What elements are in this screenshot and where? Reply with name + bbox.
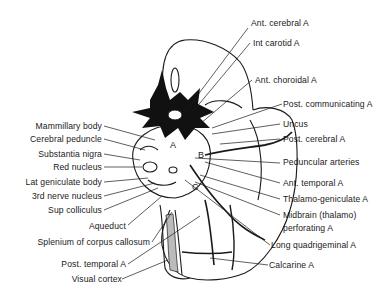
circle-of-willis [132,70,214,140]
label-ant-temporal-a: Ant. temporal A [283,178,343,188]
label-mammillary-body: Mammillary body [36,121,102,131]
label-post-temporal-a: Post. temporal A [61,259,126,269]
label-midbrain-perforating-a-2: perforating A [283,223,333,233]
label-long-quadrigeminal-a: Long quadrigeminal A [271,240,356,250]
label-int-carotid-a: Int carotid A [253,38,300,48]
label-red-nucleus: Red nucleus [53,162,102,172]
label-midbrain-perforating-a-1: Midbrain (thalamo) [283,210,356,220]
label-ant-cerebral-a: Ant. cerebral A [251,18,309,28]
label-post-communicating-a: Post. communicating A [283,99,373,109]
anatomy-diagram: A B C Mammillary body Cerebral peduncle … [0,0,386,289]
label-thalamo-geniculate-a: Thalamo-geniculate A [283,194,368,204]
region-letter-a: A [170,140,176,150]
label-lat-geniculate-body: Lat geniculate body [26,177,102,187]
label-cerebral-peduncle: Cerebral peduncle [30,134,102,144]
label-peduncular-arteries: Peduncular arteries [283,157,359,167]
label-sup-colliculus: Sup colliculus [48,205,102,215]
label-3rd-nerve-nucleus: 3rd nerve nucleus [32,191,102,201]
region-letter-c: C [192,182,199,192]
region-letter-b: B [198,150,204,160]
label-post-cerebral-a: Post. cerebral A [283,134,345,144]
label-visual-cortex: Visual cortex [72,274,122,284]
label-substantia-nigra: Substantia nigra [38,149,102,159]
label-splenium: Splenium of corpus callosum [37,237,150,247]
label-aqueduct: Aqueduct [89,221,126,231]
label-calcarine-a: Calcarine A [269,260,314,270]
label-ant-choroidal-a: Ant. choroidal A [255,75,317,85]
label-uncus: Uncus [283,119,308,129]
